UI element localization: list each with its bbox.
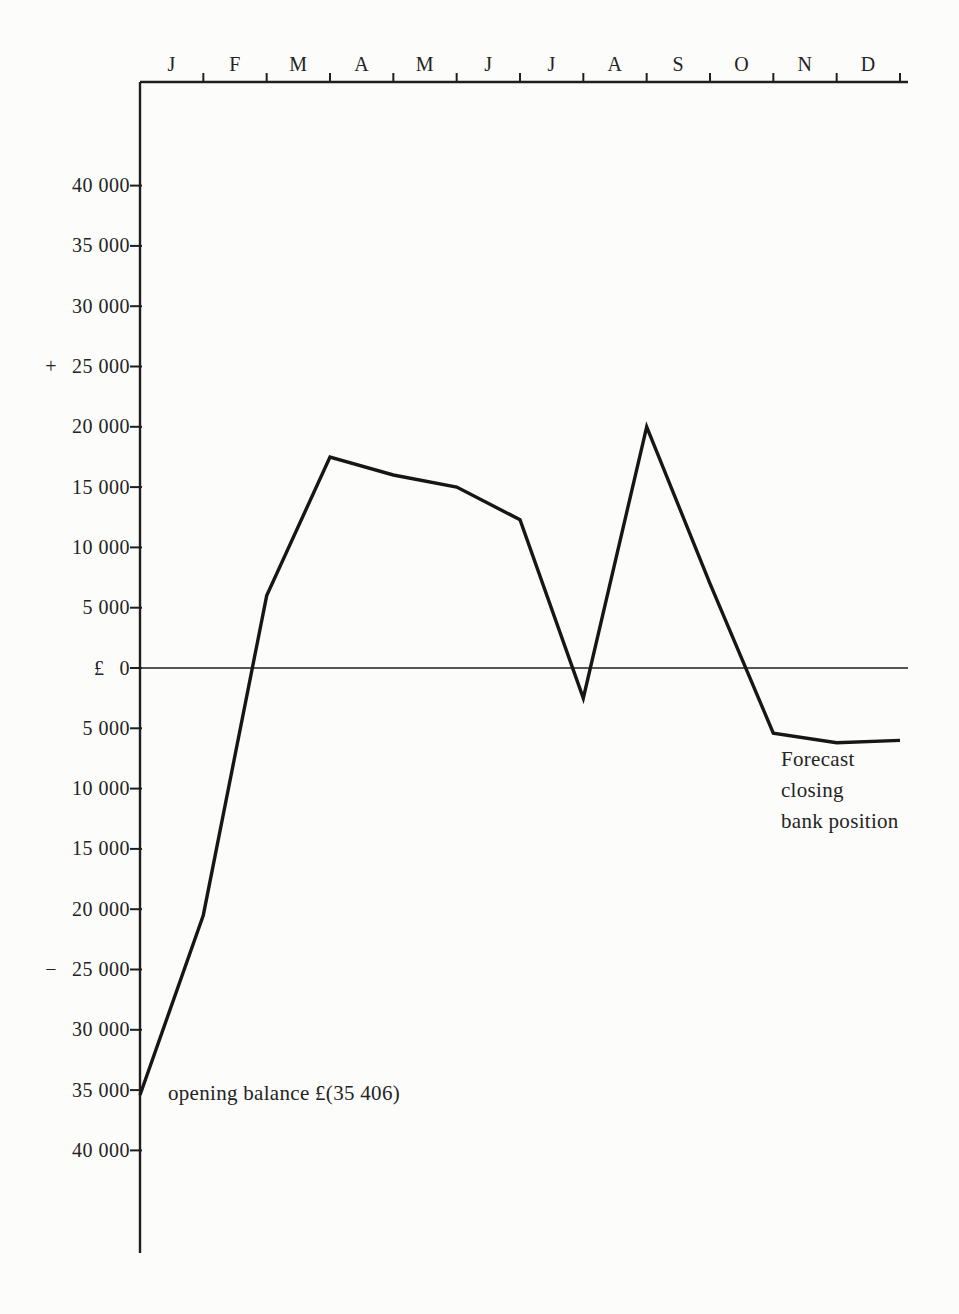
y-axis-tick-label: 10 000 <box>72 536 130 559</box>
y-axis-tick-label: 40 000 <box>72 1139 130 1162</box>
opening-balance-annotation: opening balance £(35 406) <box>168 1081 400 1106</box>
y-axis-tick-row: 35 000 <box>72 1077 130 1103</box>
y-axis-tick-row: 40 000 <box>72 173 130 199</box>
month-label: J <box>548 53 556 76</box>
y-axis-tick-row: 10 000 <box>72 776 130 802</box>
y-axis-tick-label: 30 000 <box>72 1018 130 1041</box>
month-label: S <box>672 53 684 76</box>
y-axis-tick-label: 5 000 <box>83 717 131 740</box>
month-label: D <box>861 53 876 76</box>
y-axis-tick-row: 5 000 <box>83 715 131 741</box>
month-label: M <box>289 53 307 76</box>
month-label: A <box>608 53 623 76</box>
y-axis-tick-row: 10 000 <box>72 534 130 560</box>
forecast-closing-annotation: Forecast closing bank position <box>781 744 899 837</box>
y-axis-tick-label: 40 000 <box>72 174 130 197</box>
y-axis-tick-row: 15 000 <box>72 836 130 862</box>
y-axis-tick-row: 40 000 <box>72 1137 130 1163</box>
y-axis-tick-label: 0 <box>120 657 131 680</box>
month-label: M <box>416 53 434 76</box>
y-axis-tick-row: £0 <box>94 655 130 681</box>
y-axis-tick-row: 20 000 <box>72 896 130 922</box>
plus-sign: + <box>45 355 57 378</box>
month-label: F <box>229 53 241 76</box>
y-axis-tick-label: 20 000 <box>72 898 130 921</box>
y-axis-tick-row: 20 000 <box>72 414 130 440</box>
y-axis-tick-row: 35 000 <box>72 233 130 259</box>
y-axis-tick-label: 35 000 <box>72 234 130 257</box>
y-axis-tick-label: 10 000 <box>72 777 130 800</box>
pound-sign: £ <box>94 657 105 680</box>
y-axis-tick-label: 25 000 <box>72 958 130 981</box>
y-axis-tick-label: 15 000 <box>72 837 130 860</box>
y-axis-tick-label: 35 000 <box>72 1079 130 1102</box>
y-axis-tick-row: 15 000 <box>72 474 130 500</box>
y-axis-tick-label: 20 000 <box>72 415 130 438</box>
y-axis-tick-row: 30 000 <box>72 293 130 319</box>
y-axis-tick-row: 30 000 <box>72 1017 130 1043</box>
month-label: N <box>798 53 813 76</box>
scanned-chart-page: JFMAMJJASOND 40 00035 00030 000+25 00020… <box>0 0 959 1314</box>
month-label: J <box>484 53 492 76</box>
month-label: J <box>168 53 176 76</box>
y-axis-tick-label: 25 000 <box>72 355 130 378</box>
y-axis-tick-label: 30 000 <box>72 295 130 318</box>
y-axis-tick-row: +25 000 <box>45 354 130 380</box>
y-axis-tick-label: 15 000 <box>72 476 130 499</box>
cash-flow-chart-canvas <box>0 0 959 1314</box>
month-label: A <box>354 53 369 76</box>
y-axis-tick-label: 5 000 <box>83 596 131 619</box>
y-axis-tick-row: −25 000 <box>45 957 130 983</box>
y-axis-tick-row: 5 000 <box>83 595 131 621</box>
minus-sign: − <box>45 958 57 981</box>
month-label: O <box>734 53 749 76</box>
